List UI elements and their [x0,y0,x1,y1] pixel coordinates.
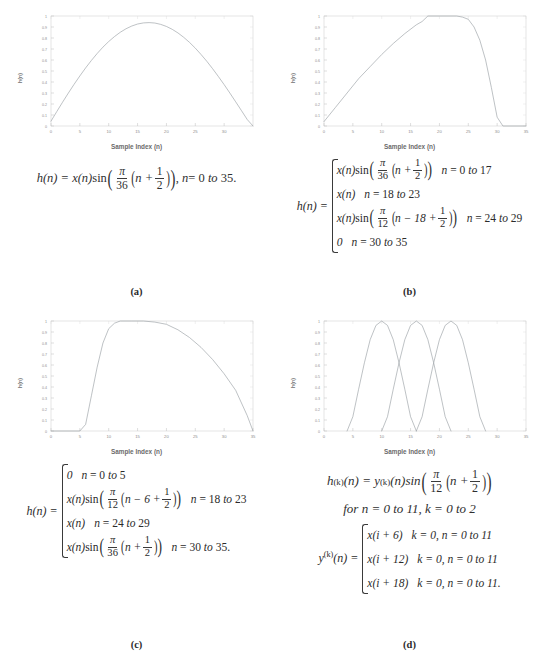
svg-text:25: 25 [192,434,197,439]
case-condition-end: 17 [480,164,492,176]
case-condition-variable: n [467,212,473,224]
equation-a-tail-eq: = 0 [188,171,204,185]
open-paren-icon: ( [99,491,104,507]
fraction-numerator: π [378,158,387,170]
svg-text:0.6: 0.6 [42,59,47,63]
fraction: 12 [162,487,171,510]
figure-grid: 00.10.20.30.40.50.60.70.80.9105101520253… [0,0,546,656]
plot-d-ylabel: h(n) [290,378,296,388]
panel-a: 00.10.20.30.40.50.60.70.80.9105101520253… [0,0,273,305]
svg-text:0.9: 0.9 [42,331,47,335]
equation-d-y-lhs: y(k)(n) = [318,551,360,566]
equation-d-inner: n + [450,474,469,489]
fraction-numerator: 1 [413,158,422,170]
svg-text:20: 20 [437,434,442,439]
svg-text:0: 0 [322,129,325,134]
case-condition-end: 5 [120,469,126,481]
case-row: x(n)sin(π36(n +12))n = 0 to 17 [337,158,523,182]
case-row: x(i + 12)k = 0, n = 0 to 11 [367,547,500,571]
case-condition: n = 0 to 5 [72,469,125,481]
sin-operator: sin [355,164,368,176]
svg-text:30: 30 [494,434,499,439]
fraction-numerator: π [108,535,117,547]
svg-text:1: 1 [318,15,320,19]
svg-text:35: 35 [250,434,255,439]
case-condition: n = 18 to 23 [182,493,247,505]
svg-text:30: 30 [494,129,499,134]
close-paren-icon: ) [158,539,163,555]
equation-a-sin: sin [92,171,107,185]
case-condition-text: k = 0, n = 0 to 11 [412,529,492,541]
case-condition-variable: n [81,469,87,481]
svg-text:10: 10 [106,434,111,439]
equation-c-lhs: h(n) = [27,504,60,519]
close-paren-icon: ) [177,491,182,507]
svg-text:0.1: 0.1 [315,419,320,423]
equation-d-y-arg: (n)sin [390,474,420,489]
panel-label-a: (a) [0,286,273,297]
case-condition-end: 29 [138,517,150,529]
case-expression: x(n)sin(π12(n − 18 +12)) [337,206,458,229]
svg-text:0: 0 [49,129,52,134]
case-inner-expression: n + [125,541,141,553]
left-brace-icon [360,523,367,595]
svg-text:0.1: 0.1 [42,114,47,118]
svg-text:1: 1 [45,320,47,324]
fraction-denominator: 2 [162,500,171,511]
case-condition-to: to [223,493,232,505]
svg-text:0: 0 [45,430,47,434]
fraction-denominator: 2 [438,219,447,230]
open-paren-inner-icon: ( [392,211,395,224]
svg-text:0.8: 0.8 [42,342,47,346]
plot-b: 00.10.20.30.40.50.60.70.80.9105101520253… [290,8,530,148]
fraction: π36 [375,158,390,181]
equation-b: h(n) = x(n)sin(π36(n +12))n = 0 to 17x(n… [273,158,546,254]
equation-a-frac-den: 36 [114,179,130,191]
fraction-denominator: 12 [375,219,390,230]
svg-text:15: 15 [135,129,140,134]
svg-text:5: 5 [351,129,354,134]
svg-text:0.1: 0.1 [42,419,47,423]
svg-text:15: 15 [408,129,413,134]
fraction-numerator: 1 [162,487,171,499]
svg-text:20: 20 [164,434,169,439]
plot-a-xlabel: Sample Index (n) [17,143,257,150]
case-condition-to: to [127,517,136,529]
sin-operator: sin [85,493,98,505]
fraction-numerator: π [378,206,387,218]
case-condition: n = 18 to 23 [355,188,420,200]
equation-d-h-arg: (n) = y [344,474,380,489]
plot-c-ylabel: h(n) [17,378,23,388]
plot-a-svg: 00.10.20.30.40.50.60.70.80.9105101520253… [17,8,257,148]
fraction-denominator: 36 [105,548,120,559]
equation-c: h(n) = 0n = 0 to 5x(n)sin(π12(n − 6 +12)… [0,463,273,559]
fraction: π36 [105,535,120,558]
case-condition-variable: n [442,164,448,176]
svg-text:0.5: 0.5 [315,70,320,74]
case-expression-prefix: x(n) [67,493,86,505]
case-condition-text: k = 0, n = 0 to 11. [417,577,500,589]
case-condition: k = 0, n = 0 to 11. [408,577,500,589]
case-expression-text: x(i + 18) [367,577,408,589]
case-expression: x(i + 6) [367,529,402,541]
panel-label-b: (b) [273,286,546,297]
equation-b-rows: x(n)sin(π36(n +12))n = 0 to 17x(n)n = 18… [337,158,523,254]
equation-d-rows: x(i + 6)k = 0, n = 0 to 11x(i + 12)k = 0… [367,523,500,595]
case-condition-variable: n [352,236,358,248]
case-expression-text: x(n) [67,517,86,529]
equation-a-half-den: 2 [155,179,165,191]
svg-text:0: 0 [318,125,320,129]
case-condition: n = 24 to 29 [85,517,150,529]
case-row: x(n)sin(π36(n +12))n = 30 to 35. [67,535,247,559]
equation-a-inner: n + [135,171,153,185]
case-condition-to: to [397,188,406,200]
case-expression: x(n) [337,188,356,200]
svg-text:0: 0 [318,430,320,434]
case-expression: x(n)sin(π36(n +12)) [67,535,163,558]
svg-text:25: 25 [465,129,470,134]
svg-text:20: 20 [164,129,169,134]
case-expression-prefix: x(n) [337,164,356,176]
case-condition-end: 35. [216,541,230,553]
plot-c-svg: 00.10.20.30.40.50.60.70.80.9105101520253… [17,313,257,453]
svg-text:0.4: 0.4 [42,386,47,390]
